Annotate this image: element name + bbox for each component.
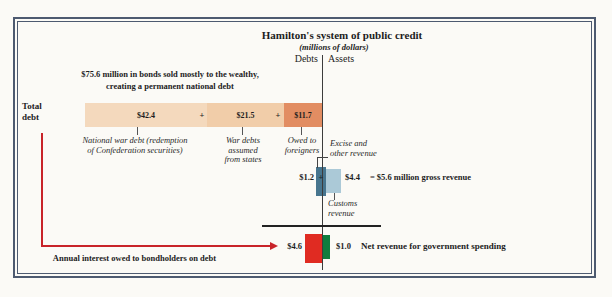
customs-revenue-bar — [326, 169, 341, 193]
tick-national — [137, 127, 138, 135]
caption-national-line2: of Confederation securities) — [65, 146, 205, 156]
debt-segment-foreign: $11.7 — [284, 103, 322, 127]
interest-connector-vertical-line — [41, 133, 43, 247]
annual-interest-caption: Annual interest owed to bondholders on d… — [47, 253, 222, 263]
total-debt-label-line2: debt — [22, 112, 62, 123]
net-revenue-bar — [323, 235, 330, 259]
plus-sign-1: + — [197, 103, 207, 127]
total-debt-label: Total debt — [22, 101, 62, 122]
excise-value: $1.2 — [280, 172, 314, 182]
debt-segment-foreign-value: $11.7 — [294, 111, 312, 120]
net-revenue-caption: Net revenue for government spending — [361, 241, 561, 251]
chart-title: Hamilton's system of public credit — [232, 29, 452, 41]
plus-sign-2: + — [273, 103, 283, 127]
debt-segment-national-value: $42.4 — [137, 111, 155, 120]
chart-subtitle: (millions of dollars) — [234, 42, 434, 52]
customs-value: $4.4 — [345, 172, 360, 182]
plus-sign-3: + — [316, 172, 326, 182]
debt-segment-states-value: $21.5 — [237, 111, 255, 120]
bonds-note-line1: $75.6 million in bonds sold mostly to th… — [60, 69, 280, 81]
total-debt-label-line1: Total — [22, 101, 62, 112]
caption-excise-revenue: Excise and other revenue — [330, 139, 400, 158]
excise-bracket-line — [317, 157, 328, 168]
annual-interest-value: $4.6 — [270, 241, 302, 251]
tick-states — [242, 127, 243, 135]
gross-revenue-total-text: = $5.6 million gross revenue — [370, 172, 471, 182]
assets-column-label: Assets — [328, 53, 388, 64]
debt-segment-national: $42.4 — [85, 103, 207, 127]
tick-foreign — [301, 127, 302, 135]
caption-national-war-debt: National war debt (redemption of Confede… — [65, 136, 205, 155]
caption-customs-revenue: Customs revenue — [328, 199, 378, 218]
caption-owed-foreigners: Owed to foreigners — [272, 136, 332, 155]
interest-connector-horizontal-line — [41, 245, 270, 247]
caption-states-line3: from states — [213, 155, 273, 165]
caption-excise-line2: other revenue — [330, 149, 400, 159]
caption-foreign-line2: foreigners — [272, 146, 332, 156]
bonds-note-line2: creating a permanent national debt — [60, 81, 280, 93]
net-revenue-baseline — [262, 225, 381, 227]
debts-column-label: Debts — [268, 53, 318, 64]
gross-revenue-line: $4.4= $5.6 million gross revenue — [345, 172, 565, 182]
bonds-note: $75.6 million in bonds sold mostly to th… — [60, 69, 280, 92]
annual-interest-bar — [305, 234, 322, 263]
caption-war-debts-states: War debts assumed from states — [213, 136, 273, 165]
caption-customs-line2: revenue — [328, 209, 378, 219]
